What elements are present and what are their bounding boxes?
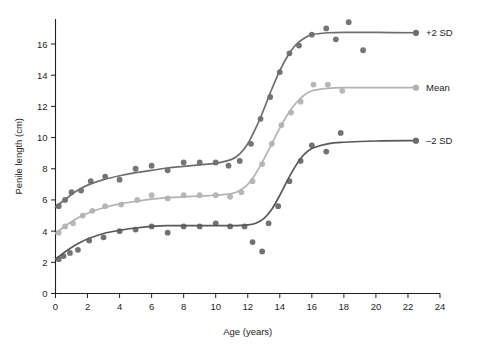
x-tick-label: 12 [242,301,253,312]
y-tick-label: 12 [37,101,48,112]
data-point [346,19,352,25]
data-point [133,166,139,172]
data-point [250,239,256,245]
penile-length-growth-chart: 0246810121416182022240246810121416Age (y… [0,0,480,359]
data-point [226,163,232,169]
data-point [339,88,345,94]
series--2-sd: –2 SD [56,130,453,262]
data-point [149,192,155,198]
data-point [323,26,329,32]
x-tick-label: 20 [371,301,382,312]
chart-plot-area: 0246810121416182022240246810121416Age (y… [0,0,480,359]
y-tick-label: 16 [37,39,48,50]
x-tick-label: 14 [275,301,286,312]
y-tick-label: 6 [42,194,47,205]
y-tick-label: 8 [42,163,47,174]
data-point [259,249,265,255]
series-end-marker [413,30,419,36]
data-point [333,36,339,42]
data-point [181,160,187,166]
y-tick-label: 4 [42,226,47,237]
data-point [360,47,366,53]
data-point [117,177,123,183]
x-tick-label: 8 [181,301,186,312]
y-axis-title: Penile length (cm) [13,118,24,195]
y-tick-label: 14 [37,70,48,81]
x-tick-label: 24 [435,301,446,312]
x-tick-label: 16 [307,301,318,312]
data-point [75,247,81,253]
data-point [323,149,329,155]
x-tick-label: 22 [403,301,414,312]
data-point [266,220,272,226]
series-label--2-sd: +2 SD [426,27,453,38]
y-tick-label: 0 [42,288,47,299]
data-point [237,158,243,164]
y-tick-label: 10 [37,132,48,143]
data-point [275,203,281,209]
x-tick-label: 0 [53,301,58,312]
data-point [101,234,107,240]
series-mean: Mean [56,82,450,236]
series-label-mean: Mean [426,82,450,93]
data-point [149,163,155,169]
x-tick-label: 6 [149,301,154,312]
y-tick-label: 2 [42,257,47,268]
series-curve [56,32,416,207]
x-tick-label: 10 [210,301,221,312]
x-tick-label: 4 [117,301,122,312]
series-curve [56,141,416,260]
data-point [165,230,171,236]
series-curve [56,88,416,234]
data-point [67,250,73,256]
series-end-marker [413,85,419,91]
data-point [311,82,317,88]
x-tick-label: 18 [339,301,350,312]
x-axis-title: Age (years) [223,326,272,337]
data-point [338,130,344,136]
x-tick-label: 2 [85,301,90,312]
series-label--2-sd: –2 SD [426,135,453,146]
series-end-marker [413,138,419,144]
data-point [325,82,331,88]
